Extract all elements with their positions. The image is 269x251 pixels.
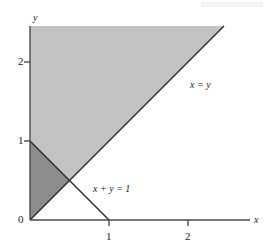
x-tick-label-1: 1: [106, 231, 112, 242]
x-axis-label: x: [254, 215, 258, 225]
y-tick-label-1: 1: [18, 135, 24, 146]
x-tick-label-2: 2: [185, 231, 191, 242]
y-tick-label-2: 2: [18, 56, 24, 67]
curve-label-x-plus-y-equals-1: x + y = 1: [93, 184, 130, 194]
curve-label-x-equals-y: x = y: [190, 80, 211, 90]
y-axis-label: y: [33, 13, 37, 23]
figure-container: y x 0 1 2 1 2 x = y x + y = 1: [0, 0, 269, 251]
plot-area: [0, 0, 269, 251]
origin-tick-label: 0: [18, 214, 24, 225]
